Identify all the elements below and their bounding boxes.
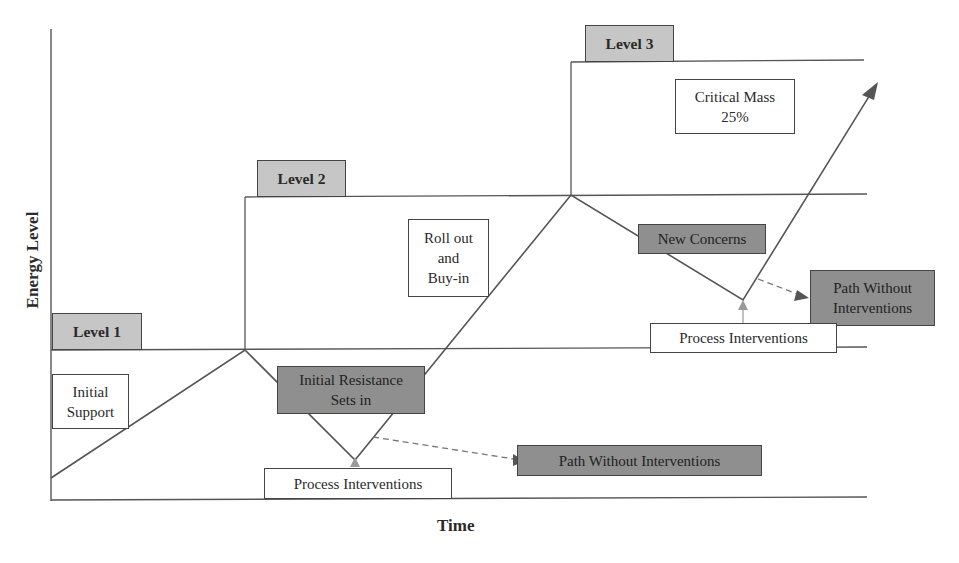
level-1-text: Level 1 (73, 322, 121, 342)
critical-mass-box: Critical Mass 25% (675, 79, 795, 134)
initial-resistance-line-2: Sets in (331, 390, 371, 410)
level-3-text: Level 3 (606, 34, 654, 54)
roll-out-line-3: Buy-in (428, 268, 470, 288)
level-3-label: Level 3 (585, 25, 674, 62)
arrowhead-icon (862, 82, 878, 100)
roll-out-box: Roll out and Buy-in (408, 219, 489, 297)
path-without-interventions-1-text: Path Without Interventions (559, 451, 721, 471)
process-interventions-box-2: Process Interventions (650, 323, 837, 353)
level-2-text: Level 2 (278, 169, 326, 189)
process-interventions-1-text: Process Interventions (294, 474, 423, 494)
y-axis-label: Energy Level (23, 205, 43, 315)
intervention-arrowhead-1-icon (350, 457, 360, 467)
level-2-label: Level 2 (257, 160, 346, 197)
new-concerns-box: New Concerns (638, 224, 766, 254)
dashed-arrow-2 (758, 279, 800, 295)
roll-out-line-2: and (438, 248, 460, 268)
initial-support-line-2: Support (67, 402, 115, 422)
intervention-arrowhead-2-icon (738, 300, 748, 310)
path-without-interventions-box-1: Path Without Interventions (517, 445, 762, 476)
initial-resistance-box: Initial Resistance Sets in (277, 366, 425, 414)
critical-mass-line-1: Critical Mass (695, 87, 775, 107)
process-interventions-2-text: Process Interventions (679, 328, 808, 348)
process-interventions-box-1: Process Interventions (264, 468, 452, 499)
x-axis (51, 497, 867, 500)
x-axis-label: Time (437, 516, 474, 536)
initial-support-box: Initial Support (52, 374, 129, 429)
roll-out-line-1: Roll out (424, 228, 473, 248)
path-without-interventions-2-line-1: Path Without (833, 278, 912, 298)
critical-mass-line-2: 25% (721, 107, 749, 127)
path-without-interventions-2-line-2: Interventions (833, 298, 912, 318)
dashed-arrowhead-2-icon (794, 290, 809, 301)
dashed-arrow-1 (373, 437, 514, 459)
initial-resistance-line-1: Initial Resistance (299, 370, 403, 390)
level-1-label: Level 1 (52, 313, 142, 350)
path-without-interventions-box-2: Path Without Interventions (810, 270, 935, 326)
new-concerns-text: New Concerns (658, 229, 747, 249)
initial-support-line-1: Initial (73, 382, 109, 402)
